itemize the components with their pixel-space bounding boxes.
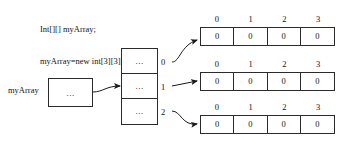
pointer-cell-0-value: ...: [122, 56, 157, 65]
row-0-array: 0 0 0 0: [200, 27, 335, 46]
pointer-cell-2: ...: [122, 99, 157, 124]
row-2-cell-2: 0: [268, 116, 301, 133]
row-2-header-0: 0: [200, 101, 234, 113]
pointer-index-1: 1: [161, 83, 171, 92]
row-1-header-2: 2: [268, 58, 302, 70]
pointer-index-2: 2: [161, 108, 171, 117]
row-1-header-0: 0: [200, 58, 234, 70]
variable-box: ...: [48, 78, 93, 107]
code-line-declaration: Int[][] myArray;: [40, 24, 123, 35]
array-diagram-canvas: Int[][] myArray; myArray=new int[3][3]; …: [0, 0, 342, 145]
row-2-cell-1: 0: [234, 116, 267, 133]
row-0-cell-0: 0: [201, 28, 234, 45]
row-0-cell-2: 0: [268, 28, 301, 45]
row-1-header-1: 1: [234, 58, 268, 70]
row-2-header-2: 2: [268, 101, 302, 113]
row-1-array: 0 0 0 0: [200, 72, 335, 91]
code-line-allocation: myArray=new int[3][3];: [40, 56, 123, 67]
variable-box-value: ...: [49, 88, 92, 97]
code-snippet: Int[][] myArray; myArray=new int[3][3];: [40, 3, 123, 87]
row-2-header: 0 1 2 3: [200, 101, 335, 113]
row-1-header: 0 1 2 3: [200, 58, 335, 70]
row-2-cell-0: 0: [201, 116, 234, 133]
pointer-cell-0: ...: [122, 49, 157, 74]
row-2-header-3: 3: [301, 101, 335, 113]
row-1-cell-3: 0: [301, 73, 334, 90]
row-1-cell-0: 0: [201, 73, 234, 90]
pointer-cell-1: ...: [122, 74, 157, 99]
row-1-cell-2: 0: [268, 73, 301, 90]
row-0-header-0: 0: [200, 13, 234, 25]
pointer-cell-1-value: ...: [122, 81, 157, 90]
row-1-cell-1: 0: [234, 73, 267, 90]
arrow-pointer-0-to-row-0: [172, 40, 197, 62]
arrow-pointer-2-to-row-2: [172, 111, 197, 124]
row-2-header-1: 1: [234, 101, 268, 113]
pointer-cell-2-value: ...: [122, 107, 157, 116]
pointer-index-0: 0: [161, 58, 171, 67]
row-0-header-3: 3: [301, 13, 335, 25]
row-2-array: 0 0 0 0: [200, 115, 335, 134]
arrow-pointer-1-to-row-1: [172, 81, 197, 86]
pointer-column: ... ... ...: [121, 48, 158, 125]
row-1-header-3: 3: [301, 58, 335, 70]
row-0-cell-1: 0: [234, 28, 267, 45]
row-2-cell-3: 0: [301, 116, 334, 133]
row-0-cell-3: 0: [301, 28, 334, 45]
row-0-header-1: 1: [234, 13, 268, 25]
row-0-header-2: 2: [268, 13, 302, 25]
row-0-header: 0 1 2 3: [200, 13, 335, 25]
variable-label: myArray: [8, 85, 39, 96]
